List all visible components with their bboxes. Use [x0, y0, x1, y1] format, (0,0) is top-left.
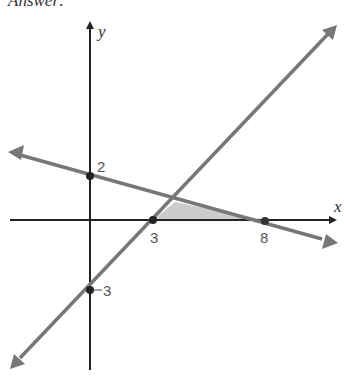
coordinate-plane: y x 2 3 8 3 [0, 0, 344, 379]
arrow-right [322, 234, 338, 249]
line-increasing [20, 34, 328, 358]
label-2: 2 [97, 158, 105, 175]
point-y2 [86, 172, 94, 180]
label-minus-3: 3 [103, 282, 111, 299]
y-axis-label: y [96, 22, 106, 41]
point-x8 [261, 217, 269, 225]
graph-figure: Answer: y x 2 3 [0, 0, 344, 379]
x-axis-label: x [333, 197, 342, 216]
point-x3 [149, 216, 157, 224]
label-3: 3 [150, 229, 158, 246]
point-ym3 [86, 286, 94, 294]
arrow-left [8, 145, 24, 160]
label-8: 8 [260, 229, 268, 246]
